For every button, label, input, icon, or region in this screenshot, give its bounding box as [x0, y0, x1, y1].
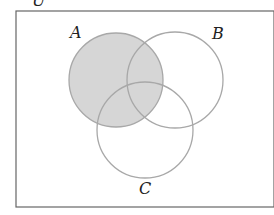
set-a-label: A: [68, 23, 82, 42]
set-c-label: C: [139, 179, 151, 198]
venn-diagram: U A B C: [0, 0, 274, 215]
set-b-label: B: [211, 24, 224, 43]
universal-set-label: U: [32, 0, 46, 10]
